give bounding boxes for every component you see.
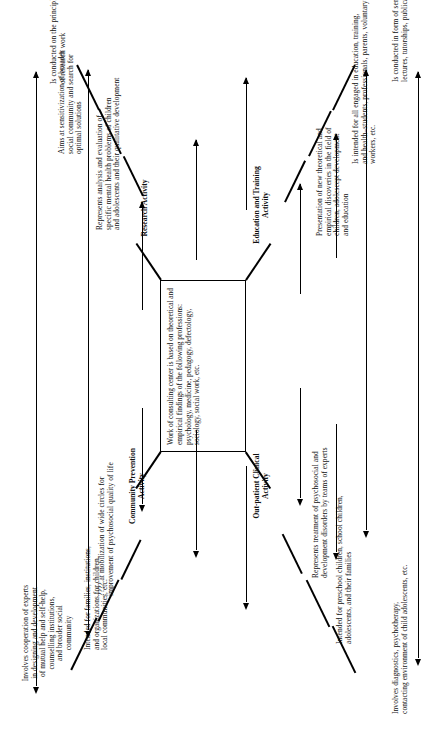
feeder-line-et-1 bbox=[300, 184, 301, 294]
note-education-and-training-3: Is conducted in form of seminars, group … bbox=[392, 0, 409, 82]
branch-title-education-and-training: Education and Training Activity bbox=[252, 150, 270, 260]
note-education-and-training-1: Presentation of new theoretical and empi… bbox=[316, 66, 350, 236]
feeder-arrow-et-2 bbox=[333, 133, 339, 140]
feeder-line-et-2 bbox=[336, 134, 337, 258]
feeder-arrow-opc-2 bbox=[333, 553, 339, 560]
tick-opc-note3 bbox=[282, 534, 303, 574]
feeder-arrow-ra-1 bbox=[139, 201, 145, 208]
connector-fourth-arrow-end bbox=[415, 71, 421, 78]
branch-title-out-patient-clinical: Out-patient Clinical Activity bbox=[252, 438, 270, 534]
connector-second-line bbox=[88, 70, 89, 630]
feeder-line-cp-1 bbox=[142, 408, 143, 504]
connector-second-arrow-end bbox=[85, 69, 91, 76]
connector-second-arrow-start bbox=[85, 631, 91, 638]
feeder-line-opc-2 bbox=[336, 424, 337, 552]
note-community-prevention-3: ???? at mobilization of wide circles for… bbox=[98, 406, 115, 596]
connector-fourth-line bbox=[418, 72, 419, 658]
feeder-arrow-et-1 bbox=[297, 183, 303, 190]
center-box-text: Work of consulting center is based on th… bbox=[167, 285, 202, 445]
connector-fourth-arrow-start bbox=[415, 659, 421, 666]
connector-outer-arrow-start bbox=[33, 687, 39, 694]
tick-cp-note3 bbox=[121, 540, 142, 580]
feeder-line-ra-2 bbox=[196, 140, 197, 260]
connector-outer-arrow-end bbox=[33, 71, 39, 78]
feeder-arrow-ra-2 bbox=[193, 139, 199, 146]
diagram-canvas: Work of consulting center is based on th… bbox=[0, 0, 445, 730]
connector-third-line bbox=[366, 70, 367, 530]
note-out-patient-clinical-1: Involves diagnostics, psychotherapy, con… bbox=[392, 514, 409, 714]
note-research-activity-1: Represents analysis and evaluation of sp… bbox=[96, 20, 122, 230]
feeder-line-cp-3 bbox=[246, 466, 247, 602]
tick-opc-note2 bbox=[306, 580, 330, 627]
feeder-arrow-opc-1 bbox=[297, 499, 303, 506]
feeder-arrow-cp-1 bbox=[139, 505, 145, 512]
connector-third-arrow-start bbox=[363, 531, 369, 538]
note-out-patient-clinical-3: Represents treatment of psychosocial and… bbox=[312, 398, 329, 578]
feeder-line-ra-3 bbox=[246, 78, 247, 210]
note-out-patient-clinical-2: Intended for preschool children, school … bbox=[336, 460, 353, 644]
feeder-arrow-cp-2 bbox=[193, 551, 199, 558]
feeder-line-opc-1 bbox=[300, 388, 301, 498]
note-research-activity-3: Is conducted on the principles of resear… bbox=[50, 0, 67, 84]
feeder-arrow-cp-3 bbox=[243, 603, 249, 610]
feeder-line-cp-2 bbox=[196, 430, 197, 550]
center-box: Work of consulting center is based on th… bbox=[160, 280, 246, 452]
feeder-line-ra-1 bbox=[142, 202, 143, 310]
note-community-prevention-1: Involves cooperation of experts in desig… bbox=[22, 558, 74, 708]
tick-et-note1 bbox=[284, 160, 306, 202]
feeder-arrow-ra-3 bbox=[243, 77, 249, 84]
connector-outer-line bbox=[36, 72, 37, 686]
note-education-and-training-2: Is intended for all engaged in education… bbox=[352, 0, 378, 164]
connector-third-arrow-end bbox=[363, 69, 369, 76]
